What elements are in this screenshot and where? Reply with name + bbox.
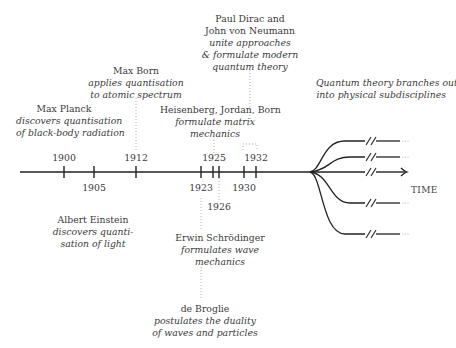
event-desc: Quantum theory branches out — [316, 77, 446, 89]
event-desc: unite approaches — [200, 37, 300, 49]
event-name: Albert Einstein — [43, 214, 143, 226]
event-born: Max Born applies quantisation to atomic … — [86, 65, 186, 101]
event-name: Erwin Schrödinger — [170, 232, 270, 244]
year-label-1926: 1926 — [207, 201, 231, 212]
event-desc: of black-body radiation — [16, 127, 112, 139]
year-label-1905: 1905 — [82, 182, 106, 193]
break-marks — [366, 137, 376, 238]
event-desc: into physical subdisciplines — [316, 89, 446, 101]
event-schrodinger: Erwin Schrödinger formulates wave mechan… — [170, 232, 270, 268]
event-einstein: Albert Einstein discovers quanti- sation… — [43, 214, 143, 250]
event-name: de Broglie — [150, 303, 260, 315]
year-label-1900: 1900 — [52, 152, 76, 163]
event-desc: formulates wave — [170, 244, 270, 256]
event-desc: applies quantisation — [86, 77, 186, 89]
time-axis-label: TIME — [411, 185, 438, 195]
event-name: Max Born — [86, 65, 186, 77]
event-name: John von Neumann — [200, 25, 300, 37]
event-desc: discovers quanti- — [43, 226, 143, 238]
event-desc: & formulate modern — [200, 49, 300, 61]
event-desc: sation of light — [43, 238, 143, 250]
event-name: Max Planck — [16, 103, 112, 115]
event-desc: formulate matrix — [160, 116, 270, 128]
event-dirac: Paul Dirac and John von Neumann unite ap… — [200, 13, 300, 73]
event-desc: discovers quantisation — [16, 115, 112, 127]
year-label-1925: 1925 — [202, 152, 226, 163]
branch-lines — [310, 141, 400, 234]
event-debroglie: de Broglie postulates the duality of wav… — [150, 303, 260, 339]
year-label-1930: 1930 — [232, 182, 256, 193]
event-desc: mechanics — [160, 128, 270, 140]
event-desc: mechanics — [170, 256, 270, 268]
event-desc: quantum theory — [200, 61, 300, 73]
year-label-1912: 1912 — [124, 152, 148, 163]
event-name: Paul Dirac and — [200, 13, 300, 25]
year-label-1932: 1932 — [244, 152, 268, 163]
event-planck: Max Planck discovers quantisation of bla… — [16, 103, 112, 139]
event-desc: to atomic spectrum — [86, 89, 186, 101]
event-heisenberg: Heisenberg, Jordan, Born formulate matri… — [160, 104, 270, 140]
year-label-1923: 1923 — [189, 182, 213, 193]
event-desc: postulates the duality — [150, 315, 260, 327]
event-branches: Quantum theory branches out into physica… — [316, 77, 446, 101]
continuation-dots — [402, 140, 408, 234]
event-desc: of waves and particles — [150, 327, 260, 339]
event-name: Heisenberg, Jordan, Born — [160, 104, 270, 116]
